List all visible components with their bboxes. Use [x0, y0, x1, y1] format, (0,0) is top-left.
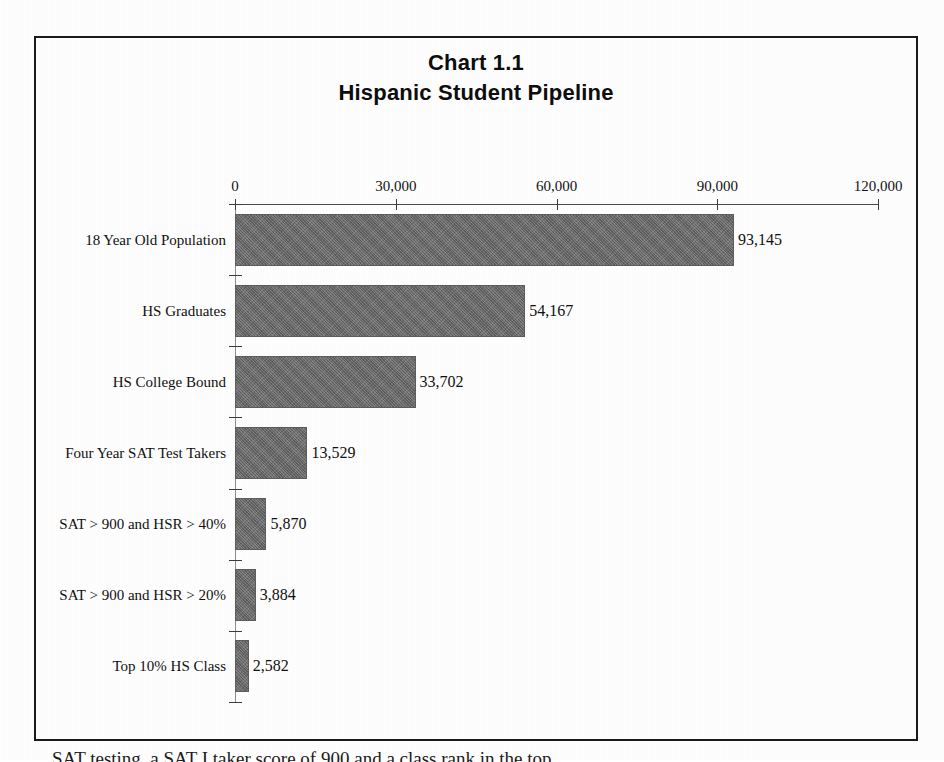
- bar-value-label: 5,870: [266, 515, 306, 533]
- x-axis-tick-label: 60,000: [536, 177, 577, 195]
- bar-row: 2,582Top 10% HS Class: [235, 640, 878, 692]
- category-label: HS College Bound: [113, 373, 235, 391]
- category-label-cell: HS Graduates: [36, 285, 235, 337]
- bar-value-label: 2,582: [249, 657, 289, 675]
- chart-plot-area: 030,00060,00090,000120,00093,14518 Year …: [235, 204, 878, 702]
- chart-frame: Chart 1.1 Hispanic Student Pipeline 030,…: [34, 36, 918, 741]
- category-label-cell: Top 10% HS Class: [36, 640, 235, 692]
- bar-row: 33,702HS College Bound: [235, 356, 878, 408]
- y-axis-tick: [229, 275, 242, 276]
- category-label-cell: Four Year SAT Test Takers: [36, 427, 235, 479]
- y-axis-tick: [229, 346, 242, 347]
- page-body-text-clipped: SAT testing, a SAT I taker score of 900 …: [52, 748, 912, 762]
- category-label-cell: 18 Year Old Population: [36, 214, 235, 266]
- bar[interactable]: [235, 285, 525, 337]
- x-axis-tick: [878, 199, 879, 210]
- x-axis-tick: [557, 199, 558, 210]
- y-axis-tick: [229, 560, 242, 561]
- x-axis-tick-label: 0: [231, 177, 239, 195]
- chart-title-main: Chart 1.1: [36, 48, 916, 78]
- bar-value-label: 3,884: [256, 586, 296, 604]
- bar-value-label: 13,529: [307, 444, 355, 462]
- x-axis-tick: [396, 199, 397, 210]
- chart-title-block: Chart 1.1 Hispanic Student Pipeline: [36, 48, 916, 108]
- bar-row: 3,884SAT > 900 and HSR > 20%: [235, 569, 878, 621]
- category-label: 18 Year Old Population: [85, 231, 235, 249]
- bar-row: 54,167HS Graduates: [235, 285, 878, 337]
- category-label-cell: SAT > 900 and HSR > 40%: [36, 498, 235, 550]
- bar[interactable]: [235, 356, 416, 408]
- bar-value-label: 54,167: [525, 302, 573, 320]
- bar[interactable]: [235, 214, 734, 266]
- category-label: Top 10% HS Class: [112, 657, 235, 675]
- bar-row: 93,14518 Year Old Population: [235, 214, 878, 266]
- bar-row: 5,870SAT > 900 and HSR > 40%: [235, 498, 878, 550]
- x-axis-tick-label: 30,000: [375, 177, 416, 195]
- bar-row: 13,529Four Year SAT Test Takers: [235, 427, 878, 479]
- bar-value-label: 33,702: [416, 373, 464, 391]
- bar[interactable]: [235, 498, 266, 550]
- bar[interactable]: [235, 640, 249, 692]
- category-label-cell: HS College Bound: [36, 356, 235, 408]
- y-axis-tick: [229, 702, 242, 703]
- category-label: SAT > 900 and HSR > 20%: [59, 586, 235, 604]
- category-label: SAT > 900 and HSR > 40%: [59, 515, 235, 533]
- y-axis-tick: [229, 489, 242, 490]
- x-axis-tick-label: 90,000: [697, 177, 738, 195]
- y-axis-tick: [229, 631, 242, 632]
- bar-value-label: 93,145: [734, 231, 782, 249]
- y-axis-tick: [229, 204, 242, 205]
- y-axis-tick: [229, 417, 242, 418]
- category-label: HS Graduates: [142, 302, 235, 320]
- x-axis-tick: [717, 199, 718, 210]
- x-axis-tick-label: 120,000: [854, 177, 903, 195]
- chart-title-subtitle: Hispanic Student Pipeline: [36, 78, 916, 108]
- category-label-cell: SAT > 900 and HSR > 20%: [36, 569, 235, 621]
- bar[interactable]: [235, 427, 307, 479]
- bar[interactable]: [235, 569, 256, 621]
- category-label: Four Year SAT Test Takers: [65, 444, 235, 462]
